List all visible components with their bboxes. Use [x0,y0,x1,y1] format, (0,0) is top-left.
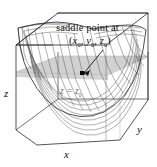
axis-label-z: z [4,87,8,99]
annotation-line-2: (x0, y0, z0) [69,35,111,49]
annotation-line-1: saddle point at [56,22,119,33]
plane-level-label: z = z0 [60,86,82,98]
plane-equals: = [64,86,75,96]
var-x0: x0 [73,35,81,46]
saddle-point-marker [80,71,85,75]
axis-label-y: y [137,123,142,135]
axis-label-x: x [64,148,69,160]
plane-value-sub: 0 [79,92,82,98]
saddle-point-figure: saddle point at (x0, y0, z0) z = z0 x y … [0,0,157,167]
paren-close: ) [107,35,111,46]
